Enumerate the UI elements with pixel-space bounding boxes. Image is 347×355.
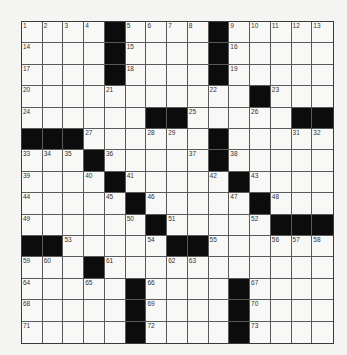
crossword-cell[interactable]: 52	[250, 215, 271, 236]
crossword-cell[interactable]: 66	[146, 279, 167, 300]
crossword-cell[interactable]: 42	[209, 172, 230, 193]
crossword-cell[interactable]	[105, 300, 126, 321]
crossword-cell[interactable]: 67	[250, 279, 271, 300]
crossword-cell[interactable]: 10	[250, 22, 271, 43]
crossword-cell[interactable]: 59	[22, 257, 43, 278]
crossword-cell[interactable]: 53	[63, 236, 84, 257]
crossword-cell[interactable]	[43, 43, 64, 64]
crossword-cell[interactable]	[292, 257, 313, 278]
crossword-cell[interactable]: 5	[126, 22, 147, 43]
crossword-cell[interactable]: 17	[22, 65, 43, 86]
crossword-cell[interactable]: 46	[146, 193, 167, 214]
crossword-cell[interactable]	[167, 279, 188, 300]
crossword-cell[interactable]	[63, 172, 84, 193]
crossword-cell[interactable]	[167, 172, 188, 193]
crossword-cell[interactable]: 57	[292, 236, 313, 257]
crossword-cell[interactable]	[229, 108, 250, 129]
crossword-cell[interactable]: 16	[229, 43, 250, 64]
crossword-cell[interactable]	[250, 236, 271, 257]
crossword-cell[interactable]	[292, 150, 313, 171]
crossword-cell[interactable]	[209, 108, 230, 129]
crossword-cell[interactable]: 9	[229, 22, 250, 43]
crossword-cell[interactable]	[229, 86, 250, 107]
crossword-cell[interactable]	[188, 65, 209, 86]
crossword-cell[interactable]	[126, 150, 147, 171]
crossword-cell[interactable]	[84, 236, 105, 257]
crossword-cell[interactable]: 58	[312, 236, 333, 257]
crossword-cell[interactable]	[292, 172, 313, 193]
crossword-cell[interactable]	[209, 193, 230, 214]
crossword-cell[interactable]	[271, 257, 292, 278]
crossword-cell[interactable]	[84, 108, 105, 129]
crossword-cell[interactable]	[209, 322, 230, 343]
crossword-cell[interactable]: 60	[43, 257, 64, 278]
crossword-cell[interactable]: 33	[22, 150, 43, 171]
crossword-cell[interactable]: 15	[126, 43, 147, 64]
crossword-cell[interactable]: 6	[146, 22, 167, 43]
crossword-cell[interactable]	[188, 193, 209, 214]
crossword-cell[interactable]: 14	[22, 43, 43, 64]
crossword-cell[interactable]	[63, 279, 84, 300]
crossword-cell[interactable]: 28	[146, 129, 167, 150]
crossword-cell[interactable]	[188, 172, 209, 193]
crossword-cell[interactable]	[292, 322, 313, 343]
crossword-cell[interactable]: 29	[167, 129, 188, 150]
crossword-cell[interactable]	[312, 322, 333, 343]
crossword-cell[interactable]	[312, 65, 333, 86]
crossword-cell[interactable]: 26	[250, 108, 271, 129]
crossword-cell[interactable]	[292, 65, 313, 86]
crossword-cell[interactable]	[146, 43, 167, 64]
crossword-cell[interactable]	[229, 257, 250, 278]
crossword-cell[interactable]	[63, 215, 84, 236]
crossword-cell[interactable]	[105, 322, 126, 343]
crossword-cell[interactable]	[63, 43, 84, 64]
crossword-cell[interactable]	[63, 193, 84, 214]
crossword-cell[interactable]	[167, 322, 188, 343]
crossword-cell[interactable]: 56	[271, 236, 292, 257]
crossword-cell[interactable]: 24	[22, 108, 43, 129]
crossword-cell[interactable]	[167, 65, 188, 86]
crossword-cell[interactable]	[250, 150, 271, 171]
crossword-cell[interactable]	[84, 215, 105, 236]
crossword-cell[interactable]: 39	[22, 172, 43, 193]
crossword-cell[interactable]: 3	[63, 22, 84, 43]
crossword-cell[interactable]: 7	[167, 22, 188, 43]
crossword-cell[interactable]	[84, 193, 105, 214]
crossword-cell[interactable]: 35	[63, 150, 84, 171]
crossword-cell[interactable]	[271, 300, 292, 321]
crossword-cell[interactable]	[146, 257, 167, 278]
crossword-cell[interactable]	[63, 300, 84, 321]
crossword-cell[interactable]	[167, 150, 188, 171]
crossword-cell[interactable]	[84, 65, 105, 86]
crossword-cell[interactable]: 47	[229, 193, 250, 214]
crossword-cell[interactable]	[43, 86, 64, 107]
crossword-cell[interactable]: 12	[292, 22, 313, 43]
crossword-cell[interactable]	[43, 322, 64, 343]
crossword-cell[interactable]	[271, 279, 292, 300]
crossword-cell[interactable]: 32	[312, 129, 333, 150]
crossword-cell[interactable]: 31	[292, 129, 313, 150]
crossword-cell[interactable]	[271, 65, 292, 86]
crossword-cell[interactable]: 34	[43, 150, 64, 171]
crossword-cell[interactable]	[292, 279, 313, 300]
crossword-cell[interactable]: 8	[188, 22, 209, 43]
crossword-cell[interactable]	[188, 43, 209, 64]
crossword-cell[interactable]	[250, 257, 271, 278]
crossword-cell[interactable]: 37	[188, 150, 209, 171]
crossword-cell[interactable]	[229, 215, 250, 236]
crossword-cell[interactable]	[84, 43, 105, 64]
crossword-cell[interactable]	[188, 322, 209, 343]
crossword-cell[interactable]: 38	[229, 150, 250, 171]
crossword-cell[interactable]	[250, 43, 271, 64]
crossword-cell[interactable]: 41	[126, 172, 147, 193]
crossword-cell[interactable]	[312, 43, 333, 64]
crossword-cell[interactable]: 43	[250, 172, 271, 193]
crossword-cell[interactable]	[105, 129, 126, 150]
crossword-cell[interactable]	[63, 108, 84, 129]
crossword-cell[interactable]	[146, 86, 167, 107]
crossword-cell[interactable]	[84, 322, 105, 343]
crossword-cell[interactable]	[126, 129, 147, 150]
crossword-cell[interactable]	[229, 236, 250, 257]
crossword-cell[interactable]	[188, 279, 209, 300]
crossword-cell[interactable]: 27	[84, 129, 105, 150]
